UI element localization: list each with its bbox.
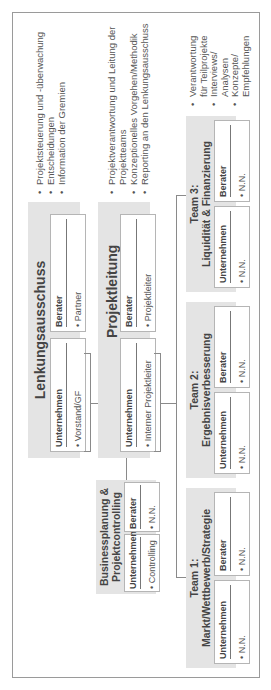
team-2-unternehmen: Unternehmen • N.N. [214,392,250,474]
task-item: Konzeptionelles Vorgehen/Methodik [128,23,139,194]
controlling-unternehmen: Unternehmen • Controlling [124,534,160,592]
controlling-title-2: Projektcontrolling [110,480,122,594]
unternehmen-item: • N.N. [237,635,247,659]
unternehmen-label: Unternehmen [128,537,141,589]
projektleitung-unternehmen: Unternehmen • Interner Projektleiter [120,338,156,452]
unternehmen-item: • Interner Projektleiter [143,360,153,447]
controlling-title-1: Businessplanung & [98,480,110,594]
berater-label: Berater [218,311,231,383]
team-title-1: Team 2: [188,302,200,478]
berater-label: Berater [54,219,67,327]
berater-item: • N.N. [237,359,247,383]
berater-item: • Projektleiter [143,274,153,327]
team-title-2: Ergebnisverbesserung [200,302,212,478]
controlling-box: Businessplanung & Projektcontrolling Unt… [96,480,156,594]
berater-item: • N.N. [237,547,247,571]
projektleitung-box: Projektleitung Unternehmen • Interner Pr… [98,202,150,458]
team-1-unternehmen: Unternehmen • N.N. [214,580,250,664]
berater-label: Berater [124,219,137,327]
team-2-box: Team 2: Ergebnisverbesserung Unternehmen… [186,302,236,478]
team-title-2: Markt/Wettbewerb/Strategie [200,488,212,668]
team-tasks: Verantwortung für Teilprojekte Interview… [188,35,251,106]
task-item: Entscheidungen [45,32,56,194]
task-item: Projektteams [117,23,128,194]
team-2-berater: Berater • N.N. [214,306,250,388]
unternehmen-label: Unternehmen [218,211,231,283]
unternehmen-label: Unternehmen [54,343,67,447]
unternehmen-item: • N.N. [237,259,247,283]
projektleitung-berater: Berater • Projektleiter [120,214,156,332]
berater-item: • N.N. [147,505,157,529]
connector-controlling [126,458,127,480]
task-item: Reporting an den Lenkungsausschuss [139,23,150,194]
team-3-berater: Berater • N.N. [214,120,250,202]
task-item: Interviews/ [209,35,220,106]
team-3-box: Team 3: Liquidität & Finanzierung Untern… [186,116,236,292]
team-title-1: Team 1: [188,488,200,668]
unternehmen-item: • Vorstand/GF [73,391,83,447]
berater-label: Berater [218,125,231,197]
team-1-box: Team 1: Markt/Wettbewerb/Strategie Unter… [186,488,236,668]
projektleitung-title: Projektleitung [104,202,120,458]
org-chart: Lenkungsausschuss Unternehmen • Vorstand… [0,0,271,690]
projektleitung-tasks: Projektverantwortung und Leitung der Pro… [106,23,150,194]
task-item: Verantwortung [188,35,199,106]
team-1-berater: Berater • N.N. [214,492,250,576]
team-title-1: Team 3: [188,116,200,292]
lenkungsausschuss-unternehmen: Unternehmen • Vorstand/GF [50,338,86,452]
unternehmen-label: Unternehmen [218,585,231,659]
berater-item: • N.N. [237,173,247,197]
task-item: Empfehlungen [241,35,252,106]
unternehmen-item: • N.N. [237,445,247,469]
connector-teams-bar [176,196,177,578]
lenkungsausschuss-box: Lenkungsausschuss Unternehmen • Vorstand… [28,202,80,458]
berater-item: • Partner [73,292,83,327]
team-title-2: Liquidität & Finanzierung [200,116,212,292]
lenkungsausschuss-title: Lenkungsausschuss [32,202,48,458]
unternehmen-item: • Controlling [147,540,157,589]
task-item: Projektsteuerung und -überwachung [34,32,45,194]
team-3-unternehmen: Unternehmen • N.N. [214,206,250,288]
task-item: Information der Gremien [56,32,67,194]
unternehmen-label: Unternehmen [124,343,137,447]
task-item: Projektverantwortung und Leitung der [106,23,117,194]
berater-label: Berater [218,497,231,571]
berater-label: Berater [128,485,141,529]
connector-team3 [176,195,186,196]
connector-lenk-down [90,403,98,404]
lenkungsausschuss-tasks: Projektsteuerung und -überwachung Entsch… [34,32,67,194]
unternehmen-label: Unternehmen [218,397,231,469]
controlling-berater: Berater • N.N. [124,482,160,532]
task-item: Konzepte/ [230,35,241,106]
lenkungsausschuss-berater: Berater • Partner [50,214,86,332]
connector-pl-down [160,403,176,404]
connector-team1 [176,577,186,578]
